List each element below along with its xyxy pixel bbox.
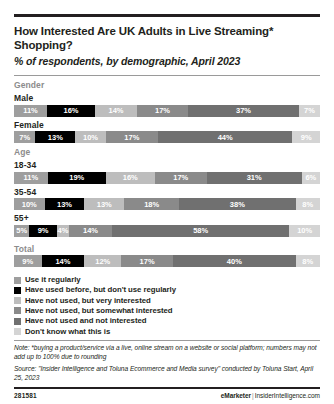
bar-segment: 12% [84, 255, 121, 267]
legend-item: Don't know what this is [14, 328, 320, 336]
brand-name: eMarketer [221, 392, 251, 399]
footer-brand: eMarketer|InsiderIntelligence.com [221, 392, 320, 399]
chart-id: 281581 [14, 392, 37, 399]
bar-segment: 17% [106, 131, 158, 143]
bar-segment: 14% [69, 225, 112, 237]
bar-segment: 16% [47, 105, 95, 117]
bar-segment: 9% [292, 131, 320, 143]
bar-segment: 17% [121, 255, 173, 267]
stacked-bar: 10%13%13%18%38%8% [14, 198, 320, 210]
page-title: How Interested Are UK Adults in Live Str… [14, 24, 320, 52]
bar-row-label: Male [14, 93, 320, 103]
legend-swatch-icon [14, 328, 21, 335]
bar-segment: 38% [179, 198, 295, 210]
bar-segment: 16% [106, 172, 155, 184]
bar-group-age: 18-3411%19%16%17%31%6%35-5410%13%13%18%3… [14, 160, 320, 237]
legend-swatch-icon [14, 277, 21, 284]
bar-row: 18-3411%19%16%17%31%6% [14, 160, 320, 184]
legend-swatch-icon [14, 307, 21, 314]
stacked-bar: 7%13%10%17%44%9% [14, 131, 320, 143]
bar-segment: 10% [289, 225, 320, 237]
bar-segment: 7% [299, 105, 320, 117]
bar-segment: 4% [57, 225, 69, 237]
bar-segment: 6% [302, 172, 320, 184]
group-label-total: Total [14, 244, 320, 254]
divider-above-note [14, 340, 320, 341]
bar-segment: 31% [207, 172, 302, 184]
bar-row: 35-5410%13%13%18%38%8% [14, 187, 320, 211]
bar-segment: 7% [14, 131, 35, 143]
bar-group-gender: Male11%16%14%17%37%7%Female7%13%10%17%44… [14, 93, 320, 143]
bar-segment: 37% [188, 105, 299, 117]
bar-segment: 40% [173, 255, 295, 267]
divider-under-title [14, 75, 320, 76]
bar-segment: 9% [14, 255, 42, 267]
bar-row: 55+5%9%4%14%58%10% [14, 213, 320, 237]
legend-swatch-icon [14, 318, 21, 325]
bar-segment: 8% [296, 198, 320, 210]
bar-row-label: 35-54 [14, 187, 320, 197]
legend-item: Have not used and not interested [14, 317, 320, 325]
bar-segment: 13% [84, 198, 124, 210]
bar-segment: 18% [124, 198, 179, 210]
group-label-gender: Gender [14, 80, 320, 90]
legend-swatch-icon [14, 287, 21, 294]
legend-label: Have not used, but very interested [25, 297, 151, 305]
stacked-bar: 11%19%16%17%31%6% [14, 172, 320, 184]
note-text: Note: *buying a product/service via a li… [14, 344, 320, 361]
bar-segment: 9% [29, 225, 57, 237]
bar-segment: 8% [296, 255, 320, 267]
bar-row-label: Female [14, 120, 320, 130]
bar-segment: 10% [75, 131, 106, 143]
bar-segment: 14% [95, 105, 137, 117]
source-text: Source: "Insider Intelligence and Toluna… [14, 365, 320, 382]
legend-label: Use it regularly [25, 276, 81, 284]
page-subtitle: % of respondents, by demographic, April … [14, 55, 320, 68]
footer-rule [14, 387, 320, 389]
legend-label: Have used before, but don't use regularl… [25, 286, 176, 294]
bar-row: Male11%16%14%17%37%7% [14, 93, 320, 117]
bar-row: Female7%13%10%17%44%9% [14, 120, 320, 144]
top-rule [14, 14, 320, 17]
chart-legend: Use it regularlyHave used before, but do… [14, 276, 320, 335]
bar-segment: 44% [158, 131, 293, 143]
bar-segment: 5% [14, 225, 29, 237]
legend-label: Have not used and not interested [25, 317, 146, 325]
bar-segment: 14% [42, 255, 85, 267]
legend-label: Have not used, but somewhat interested [25, 307, 173, 315]
bar-segment: 10% [14, 198, 45, 210]
bar-segment: 11% [14, 105, 47, 117]
bar-segment: 17% [137, 105, 188, 117]
bar-segment: 13% [45, 198, 85, 210]
legend-item: Have not used, but very interested [14, 297, 320, 305]
legend-item: Have used before, but don't use regularl… [14, 286, 320, 294]
legend-item: Have not used, but somewhat interested [14, 307, 320, 315]
bar-segment: 11% [14, 172, 48, 184]
bar-segment: 17% [155, 172, 207, 184]
bar-group-total: Total 9%14%12%17%40%8% [14, 244, 320, 268]
legend-label: Don't know what this is [25, 328, 110, 336]
stacked-bar: 5%9%4%14%58%10% [14, 225, 320, 237]
bar-row-label: 18-34 [14, 160, 320, 170]
stacked-bar: 9%14%12%17%40%8% [14, 255, 320, 267]
legend-swatch-icon [14, 297, 21, 304]
bar-segment: 13% [35, 131, 75, 143]
footer-site: InsiderIntelligence.com [255, 392, 320, 399]
footer: 281581 eMarketer|InsiderIntelligence.com [14, 392, 320, 399]
legend-item: Use it regularly [14, 276, 320, 284]
chart-card: How Interested Are UK Adults in Live Str… [0, 14, 334, 404]
group-label-age: Age [14, 147, 320, 157]
bar-row-label: 55+ [14, 213, 320, 223]
stacked-bar: 11%16%14%17%37%7% [14, 105, 320, 117]
bar-segment: 58% [112, 225, 289, 237]
bar-segment: 19% [48, 172, 106, 184]
